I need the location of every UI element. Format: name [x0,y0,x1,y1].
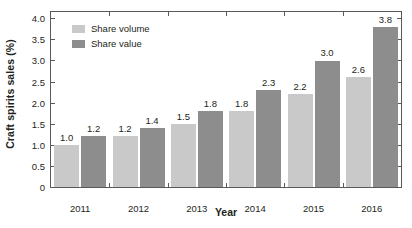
x-tick-mark-top [226,12,227,16]
y-tick-mark [51,187,55,188]
y-tick-label: 1.5 [5,118,45,129]
x-tick-mark [168,183,169,187]
bar [140,128,165,187]
y-tick-label: 0.5 [5,160,45,171]
bar-value-label: 3.0 [307,47,347,58]
y-tick-mark [51,60,55,61]
y-tick-mark [51,103,55,104]
y-tick-mark [51,124,55,125]
x-tick-mark-top [168,12,169,16]
legend-swatch-share-volume [72,25,85,33]
legend-item-share-value: Share value [72,37,150,50]
y-tick-label: 3.5 [5,34,45,45]
x-tick-mark [226,183,227,187]
bar-value-label: 3.8 [365,14,405,25]
legend-label-share-volume: Share volume [91,23,150,34]
chart-legend: Share volume Share value [72,22,150,52]
x-tick-mark [284,183,285,187]
x-tick-mark-top [109,12,110,16]
y-tick-label: 2.0 [5,97,45,108]
chart-figure: Craft spirits sales (%) Share volume Sha… [0,0,412,228]
plot-area: Share volume Share value 00.51.01.52.02.… [50,11,402,188]
legend-swatch-share-value [72,40,85,48]
x-tick-mark-top [343,12,344,16]
legend-item-share-volume: Share volume [72,22,150,35]
bar [198,111,223,187]
bar [315,61,340,188]
bar [54,145,79,187]
x-tick-mark [343,183,344,187]
x-tick-mark-top [284,12,285,16]
bar [256,90,281,187]
y-tick-label: 3.0 [5,55,45,66]
bar [346,77,371,187]
y-tick-mark [51,82,55,83]
y-tick-label: 1.0 [5,139,45,150]
x-axis-title: Year [50,206,402,218]
bar [229,111,254,187]
y-tick-label: 0 [5,182,45,193]
bar [171,124,196,187]
bar [113,136,138,187]
y-tick-mark-right [397,187,401,188]
legend-label-share-value: Share value [91,38,142,49]
y-tick-label: 2.5 [5,76,45,87]
y-tick-mark [51,18,55,19]
bar [373,27,398,187]
y-tick-mark [51,39,55,40]
x-tick-mark [109,183,110,187]
bar [81,136,106,187]
bar [288,94,313,187]
y-tick-label: 4.0 [5,13,45,24]
